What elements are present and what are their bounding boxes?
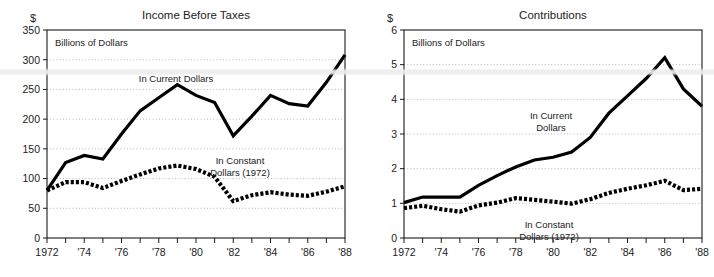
x-tick-label: '82 — [226, 246, 240, 258]
x-tick-label: '82 — [583, 246, 597, 258]
x-tick-label: '74 — [434, 246, 448, 258]
series-line-constant-dollars — [47, 166, 345, 202]
y-tick-label: 350 — [22, 24, 40, 36]
x-tick-label: '86 — [658, 246, 672, 258]
y-tick-label: 2 — [391, 162, 397, 174]
gridlines — [404, 65, 702, 204]
chart-panel-contributions: Contributions$01234561972'74'76'78'80'82… — [357, 0, 714, 277]
y-tick-label: 50 — [28, 202, 40, 214]
x-tick-label: '78 — [509, 246, 523, 258]
chart-title: Contributions — [519, 9, 587, 21]
x-tick-label: '76 — [472, 246, 486, 258]
x-tick-label: 1972 — [35, 246, 59, 258]
y-tick-label: 200 — [22, 113, 40, 125]
x-tick-label: '84 — [621, 246, 635, 258]
figure-root: Income Before Taxes$05010015020025030035… — [0, 0, 714, 277]
y-tick-label: 300 — [22, 54, 40, 66]
y-tick-label: 100 — [22, 172, 40, 184]
x-tick-label: '88 — [695, 246, 709, 258]
x-tick-label: '80 — [546, 246, 560, 258]
chart-svg-income-before-taxes: Income Before Taxes$05010015020025030035… — [0, 0, 357, 277]
series-annotation-constant-dollars: In ConstantDollars (1972) — [519, 219, 579, 242]
x-tick-label: '84 — [264, 246, 278, 258]
currency-symbol: $ — [30, 12, 36, 24]
units-note: Billions of Dollars — [55, 37, 128, 48]
currency-symbol: $ — [387, 12, 393, 24]
series-annotation-current-dollars: In Current Dollars — [139, 73, 214, 84]
chart-title: Income Before Taxes — [142, 9, 250, 21]
x-axis: 1972'74'76'78'80'82'84'86'88 — [35, 238, 352, 258]
y-tick-label: 5 — [391, 58, 397, 70]
series-annotation-current-dollars: In CurrentDollars — [530, 110, 573, 133]
y-tick-label: 150 — [22, 143, 40, 155]
y-axis: 050100150200250300350 — [22, 24, 47, 244]
plot-frame — [47, 30, 345, 238]
x-tick-label: '76 — [115, 246, 129, 258]
y-tick-label: 250 — [22, 83, 40, 95]
y-tick-label: 0 — [34, 232, 40, 244]
y-tick-label: 1 — [391, 197, 397, 209]
x-tick-label: '74 — [77, 246, 91, 258]
y-axis: 0123456 — [391, 24, 404, 244]
units-note: Billions of Dollars — [412, 37, 485, 48]
chart-svg-contributions: Contributions$01234561972'74'76'78'80'82… — [357, 0, 714, 277]
chart-panel-income-before-taxes: Income Before Taxes$05010015020025030035… — [0, 0, 357, 277]
y-tick-label: 6 — [391, 24, 397, 36]
x-tick-label: '88 — [338, 246, 352, 258]
series-annotation-constant-dollars: In ConstantDollars (1972) — [210, 155, 270, 178]
y-tick-label: 3 — [391, 128, 397, 140]
x-tick-label: '80 — [189, 246, 203, 258]
x-tick-label: '86 — [301, 246, 315, 258]
y-tick-label: 0 — [391, 232, 397, 244]
x-tick-label: '78 — [152, 246, 166, 258]
x-tick-label: 1972 — [392, 246, 416, 258]
y-tick-label: 4 — [391, 93, 397, 105]
